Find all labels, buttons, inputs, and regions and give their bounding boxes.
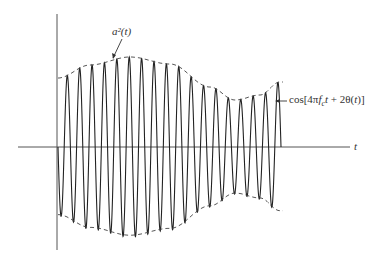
carrier-label: cos[4πfct + 2θ(t)] <box>289 93 365 108</box>
envelope-label: a²(t) <box>112 25 131 37</box>
carrier-label-post: + 2θ( <box>328 93 354 105</box>
carrier-arrowhead <box>275 99 280 103</box>
time-axis-label: t <box>354 140 357 152</box>
carrier-label-pre: cos[4π <box>289 93 318 105</box>
carrier-label-end: )] <box>357 93 364 105</box>
modulated-signal-figure <box>0 0 377 262</box>
upper-envelope <box>58 57 283 100</box>
